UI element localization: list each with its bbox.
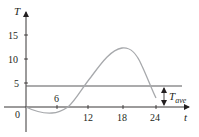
y-axis-label: T xyxy=(14,5,21,17)
y-tick-label-5: 5 xyxy=(14,78,19,89)
x-tick-label-6: 6 xyxy=(54,93,59,104)
x-tick-label-12: 12 xyxy=(83,112,93,123)
y-tick-label-15: 15 xyxy=(8,30,18,41)
origin-label: 0 xyxy=(15,109,20,120)
y-tick-label-10: 10 xyxy=(8,54,18,65)
x-tick-label-24: 24 xyxy=(150,112,160,123)
x-tick-label-18: 18 xyxy=(117,112,127,123)
t-ave-label: Tave xyxy=(169,90,187,105)
temperature-curve xyxy=(26,48,156,113)
x-axis-label: t xyxy=(184,111,188,123)
line-chart: T t 15 10 5 0 6 12 18 24 Tave xyxy=(0,0,199,137)
